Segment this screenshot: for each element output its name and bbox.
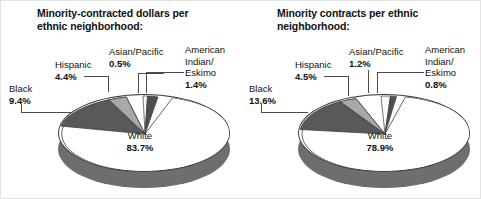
leader-asian-drop [138,73,139,93]
label-black: Black 9.4% [9,83,55,106]
leader-black-line [261,112,308,113]
leader-amind-line [146,72,184,73]
chart-panel-dollars: Minority-contracted dollars per ethnic n… [0,0,240,199]
label-black-name: Black [9,83,55,95]
label-hispanic-value: 4.4% [55,71,107,83]
label-american-indian: American Indian/ Eskimo 0.8% [425,44,477,90]
label-american-indian: American Indian/ Eskimo 1.4% [185,44,237,90]
label-black-value: 9.4% [9,95,55,107]
label-asian-pacific-value: 1.2% [349,58,419,70]
label-american-indian-value: 0.8% [425,79,477,91]
label-asian-pacific: Asian/Pacific 0.5% [109,46,179,69]
label-white-value: 83.7% [105,142,175,154]
label-white-name: White [105,130,175,142]
label-hispanic-name: Hispanic [55,59,107,71]
chart-title-line2: ethnic neighborhood: [37,20,143,32]
label-white-value: 78.9% [345,142,415,154]
leader-hispanic-drop [108,76,109,92]
label-hispanic-name: Hispanic [295,59,347,71]
label-black: Black 13.6% [249,83,295,106]
label-american-indian-name3: Eskimo [185,67,237,79]
label-american-indian-name3: Eskimo [425,67,477,79]
label-hispanic: Hispanic 4.5% [295,59,347,82]
label-asian-pacific-name: Asian/Pacific [109,46,179,58]
leader-hispanic-drop [348,76,349,96]
label-white-name: White [345,130,415,142]
label-american-indian-name2: Indian/ [425,56,477,68]
label-black-value: 13.6% [249,95,295,107]
label-asian-pacific-value: 0.5% [109,58,179,70]
leader-asian-drop [368,70,369,93]
label-hispanic: Hispanic 4.4% [55,59,107,82]
chart-panel-contracts: Minority contracts per ethnic neighborho… [240,0,480,199]
label-white: White 78.9% [345,130,415,153]
leader-black-line [21,112,71,113]
label-american-indian-name2: Indian/ [185,56,237,68]
label-hispanic-value: 4.5% [295,71,347,83]
chart-title-contracts-line2: neighborhood: [277,20,350,32]
label-american-indian-name1: American [425,44,477,56]
label-asian-pacific-name: Asian/Pacific [349,46,419,58]
leader-amind-line [377,72,424,73]
label-white: White 83.7% [105,130,175,153]
leader-asian-line [138,73,164,74]
chart-title-dollars: Minority-contracted dollars per ethnic n… [37,7,227,33]
chart-title-line1: Minority-contracted dollars per [37,7,189,19]
leader-amind-drop [146,72,147,93]
leader-amind-drop [377,72,378,93]
label-black-name: Black [249,83,295,95]
chart-title-contracts-line1: Minority contracts per ethnic [277,7,418,19]
label-american-indian-value: 1.4% [185,79,237,91]
chart-title-contracts: Minority contracts per ethnic neighborho… [277,7,467,33]
label-asian-pacific: Asian/Pacific 1.2% [349,46,419,69]
label-american-indian-name1: American [185,44,237,56]
